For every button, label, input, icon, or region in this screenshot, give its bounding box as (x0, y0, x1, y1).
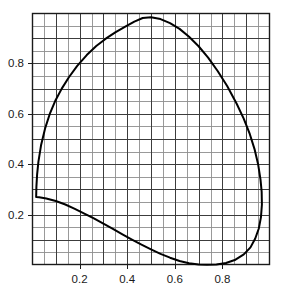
chart-canvas: 0.20.40.60.8 0.20.40.60.8 (0, 0, 282, 294)
y-tick-label: 0.2 (8, 209, 24, 221)
x-tick-label: 0.6 (167, 273, 183, 285)
y-tick-label: 0.6 (8, 108, 24, 120)
x-tick-label: 0.4 (119, 273, 136, 285)
y-tick-label: 0.4 (8, 158, 25, 170)
x-tick-label: 0.8 (214, 273, 230, 285)
y-tick-label: 0.8 (8, 57, 24, 69)
chromaticity-chart: 0.20.40.60.8 0.20.40.60.8 (0, 0, 282, 294)
x-tick-label: 0.2 (72, 273, 88, 285)
chart-background (0, 0, 282, 294)
